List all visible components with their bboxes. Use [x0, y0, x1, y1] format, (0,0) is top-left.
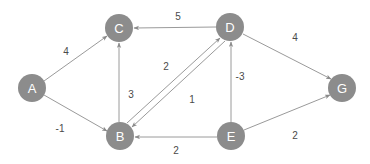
edge-d-to-c — [134, 27, 216, 28]
node-c[interactable]: C — [105, 14, 133, 42]
edge-d-to-b — [132, 41, 225, 127]
node-b[interactable]: B — [106, 122, 134, 150]
edge-weight-d-c: 5 — [175, 11, 181, 22]
edges-layer — [44, 27, 331, 137]
nodes-layer: ABCDEG — [18, 13, 356, 150]
edge-d-to-g — [243, 34, 331, 79]
node-label-e: E — [227, 129, 236, 144]
edge-weights-layer: 4-15321-3242 — [56, 11, 299, 156]
node-a[interactable]: A — [18, 74, 46, 102]
node-d[interactable]: D — [216, 13, 244, 41]
edge-a-to-b — [44, 95, 107, 131]
edge-weight-d-b: 1 — [189, 94, 195, 105]
node-label-g: G — [337, 81, 347, 96]
edge-weight-e-b: 2 — [173, 145, 179, 156]
edge-weight-b-d: 2 — [163, 61, 169, 72]
edge-a-to-c — [44, 36, 107, 81]
node-label-a: A — [28, 81, 37, 96]
graph-svg: 4-15321-3242 ABCDEG — [0, 0, 370, 164]
graph-diagram-canvas: 4-15321-3242 ABCDEG — [0, 0, 370, 164]
edge-e-to-g — [244, 95, 330, 130]
node-e[interactable]: E — [217, 122, 245, 150]
edge-weight-e-d: -3 — [236, 71, 245, 82]
node-label-b: B — [116, 129, 125, 144]
node-label-d: D — [225, 20, 234, 35]
node-g[interactable]: G — [328, 74, 356, 102]
edge-weight-a-b: -1 — [56, 123, 65, 134]
edge-weight-a-c: 4 — [63, 46, 69, 57]
edge-weight-b-c: 3 — [128, 89, 134, 100]
edge-weight-e-g: 2 — [292, 130, 298, 141]
edge-weight-d-g: 4 — [292, 32, 298, 43]
edge-b-to-d — [127, 38, 220, 123]
node-label-c: C — [114, 21, 123, 36]
